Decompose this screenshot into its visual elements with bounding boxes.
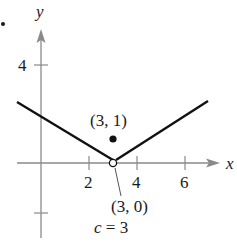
- graph-canvas: y x 4 2 4 6 (3, 1) (3, 0) c = 3: [0, 0, 237, 245]
- c-value: = 3: [102, 218, 129, 237]
- y-axis-label: y: [34, 2, 44, 21]
- x-tick-label-4: 4: [132, 173, 141, 192]
- y-tick-label-4: 4: [18, 56, 27, 75]
- filled-point: [109, 135, 116, 142]
- y-axis: [34, 29, 48, 238]
- leader-line: [115, 168, 121, 196]
- point-label-3-1: (3, 1): [90, 111, 127, 130]
- x-tick-label-6: 6: [180, 173, 189, 192]
- open-point: [109, 159, 116, 166]
- c-equation-label: c = 3: [94, 218, 128, 237]
- x-axis-label: x: [225, 154, 234, 173]
- point-label-3-0: (3, 0): [111, 197, 148, 216]
- x-tick-label-2: 2: [84, 173, 93, 192]
- curve-right-branch: [116, 101, 208, 160]
- bullet-marker: [1, 22, 5, 26]
